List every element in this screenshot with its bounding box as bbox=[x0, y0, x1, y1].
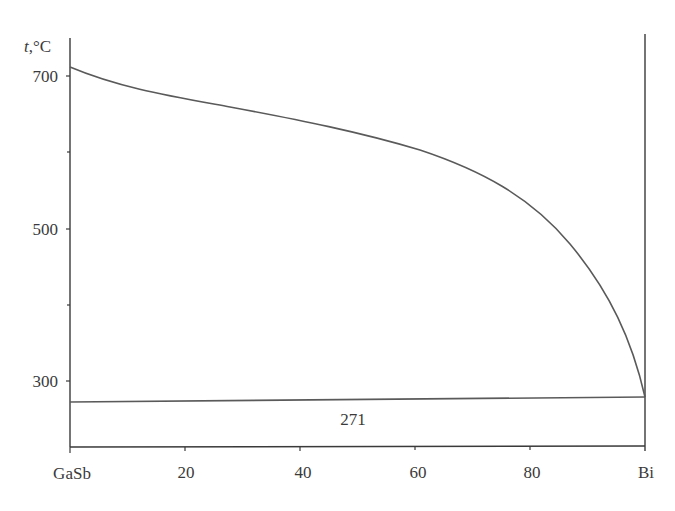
x-tick-label-bi: Bi bbox=[638, 463, 654, 482]
y-tick-label-500: 500 bbox=[33, 220, 59, 239]
x-tick-label-gasb: GaSb bbox=[53, 464, 91, 483]
eutectic-line-271 bbox=[70, 397, 645, 402]
y-axis-title-unit: ,°C bbox=[29, 37, 51, 56]
annotation-271: 271 bbox=[340, 410, 366, 429]
x-tick-label-80: 80 bbox=[524, 463, 541, 482]
y-axis-title: t,°C bbox=[24, 37, 51, 56]
x-tick-label-20: 20 bbox=[178, 463, 195, 482]
x-tick-label-60: 60 bbox=[410, 463, 427, 482]
y-tick-label-700: 700 bbox=[33, 67, 59, 86]
y-tick-label-300: 300 bbox=[33, 372, 59, 391]
phase-diagram: t,°C 700 500 300 GaSb 20 40 60 80 Bi 271 bbox=[0, 0, 675, 511]
x-axis bbox=[70, 446, 645, 447]
x-tick-label-40: 40 bbox=[295, 463, 312, 482]
liquidus-curve bbox=[70, 67, 645, 397]
